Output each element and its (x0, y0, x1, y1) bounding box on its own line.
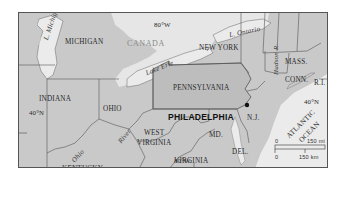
city-dot (245, 103, 249, 107)
label-hudson-river: Hudson R. (273, 44, 280, 75)
scale-zero-bottom: 0 (275, 155, 278, 161)
map-frame: MICHIGAN CANADA NEW YORK PENNSYLVANIA IN… (18, 12, 328, 168)
scale-zero-top: 0 (275, 139, 278, 145)
scale-label-km: 150 km (299, 155, 319, 161)
label-connecticut: CONN. (285, 77, 308, 84)
label-80w-bottom: 80°W (174, 158, 191, 165)
label-40n-left: 40°N (29, 110, 44, 117)
label-new-york: NEW YORK (199, 45, 239, 52)
label-new-jersey: N.J. (247, 115, 259, 122)
label-west-virginia-1: WEST (144, 130, 164, 137)
label-kentucky: KENTUCKY (62, 166, 103, 168)
label-michigan: MICHIGAN (65, 39, 103, 46)
label-massachusetts: MASS. (285, 59, 307, 66)
label-80w-top: 80°W (154, 22, 171, 29)
label-indiana: INDIANA (39, 96, 71, 103)
label-ohio: OHIO (103, 106, 122, 113)
label-pennsylvania: PENNSYLVANIA (173, 85, 229, 92)
label-canada: CANADA (127, 40, 165, 48)
label-40n-right: 40°N (304, 99, 319, 106)
label-delaware: DEL. (232, 149, 249, 156)
scale-label-mi: 150 mi (307, 139, 325, 145)
label-rhode-island: R.I. (314, 80, 326, 87)
label-west-virginia-2: VIRGINIA (137, 140, 171, 147)
label-maryland: MD. (209, 132, 223, 139)
label-philadelphia: PHILADELPHIA (168, 113, 234, 122)
